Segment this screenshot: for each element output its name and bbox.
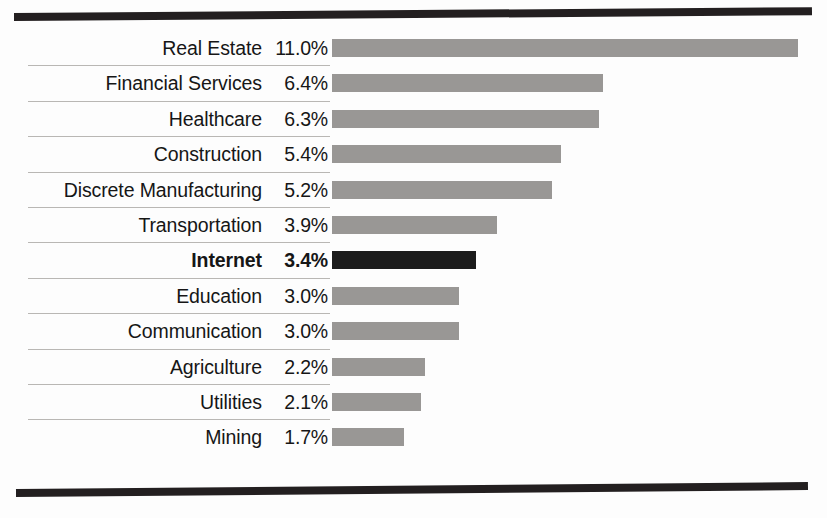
chart-row: Utilities2.1% xyxy=(0,384,827,419)
bar xyxy=(332,145,561,163)
chart-row: Discrete Manufacturing5.2% xyxy=(0,172,827,207)
row-separator xyxy=(28,207,330,208)
value-label: 3.9% xyxy=(262,214,328,236)
value-label: 5.4% xyxy=(262,143,328,165)
bar-track xyxy=(332,428,827,446)
category-label: Discrete Manufacturing xyxy=(0,179,262,201)
row-separator xyxy=(28,101,330,102)
value-label: 2.1% xyxy=(262,391,328,413)
bar-track xyxy=(332,145,827,163)
caption-fragment xyxy=(610,503,815,518)
category-label: Financial Services xyxy=(0,72,262,94)
chart-row: Mining1.7% xyxy=(0,419,827,454)
category-label: Mining xyxy=(0,426,262,448)
row-separator xyxy=(28,419,330,420)
bottom-rule xyxy=(16,482,808,497)
value-label: 1.7% xyxy=(262,426,328,448)
value-label: 3.0% xyxy=(262,320,328,342)
bar-track xyxy=(332,39,827,57)
bar-track xyxy=(332,251,827,269)
bar-track xyxy=(332,110,827,128)
chart-row: Financial Services6.4% xyxy=(0,65,827,100)
bar-track xyxy=(332,216,827,234)
row-separator xyxy=(28,278,330,279)
category-label: Construction xyxy=(0,143,262,165)
bar-track xyxy=(332,322,827,340)
bar xyxy=(332,39,798,57)
chart-row: Construction5.4% xyxy=(0,136,827,171)
bar xyxy=(332,74,603,92)
category-label: Healthcare xyxy=(0,108,262,130)
bar xyxy=(332,358,425,376)
bar-track xyxy=(332,181,827,199)
bar xyxy=(332,428,404,446)
chart-row: Transportation3.9% xyxy=(0,207,827,242)
bar xyxy=(332,393,421,411)
chart-row: Communication3.0% xyxy=(0,313,827,348)
value-label: 11.0% xyxy=(262,37,328,59)
row-separator xyxy=(28,172,330,173)
bar-track xyxy=(332,287,827,305)
bar xyxy=(332,322,459,340)
category-label: Internet xyxy=(0,249,262,271)
bar-track xyxy=(332,393,827,411)
horizontal-bar-chart: Real Estate11.0%Financial Services6.4%He… xyxy=(0,0,827,518)
chart-row: Internet3.4% xyxy=(0,242,827,277)
row-separator xyxy=(28,65,330,66)
value-label: 6.3% xyxy=(262,108,328,130)
chart-rows: Real Estate11.0%Financial Services6.4%He… xyxy=(0,30,827,455)
category-label: Agriculture xyxy=(0,356,262,378)
row-separator xyxy=(28,384,330,385)
category-label: Utilities xyxy=(0,391,262,413)
chart-row: Healthcare6.3% xyxy=(0,101,827,136)
value-label: 3.0% xyxy=(262,285,328,307)
row-separator xyxy=(28,313,330,314)
row-separator xyxy=(28,136,330,137)
value-label: 2.2% xyxy=(262,356,328,378)
bar-track xyxy=(332,74,827,92)
bar xyxy=(332,287,459,305)
bar xyxy=(332,110,599,128)
bar xyxy=(332,216,497,234)
category-label: Communication xyxy=(0,320,262,342)
row-separator xyxy=(28,349,330,350)
bar xyxy=(332,181,552,199)
top-rule xyxy=(14,7,812,21)
row-separator xyxy=(28,242,330,243)
value-label: 3.4% xyxy=(262,249,328,271)
chart-row: Real Estate11.0% xyxy=(0,30,827,65)
value-label: 6.4% xyxy=(262,72,328,94)
bar xyxy=(332,251,476,269)
bar-track xyxy=(332,358,827,376)
chart-row: Education3.0% xyxy=(0,278,827,313)
value-label: 5.2% xyxy=(262,179,328,201)
category-label: Real Estate xyxy=(0,37,262,59)
chart-row: Agriculture2.2% xyxy=(0,349,827,384)
category-label: Transportation xyxy=(0,214,262,236)
category-label: Education xyxy=(0,285,262,307)
